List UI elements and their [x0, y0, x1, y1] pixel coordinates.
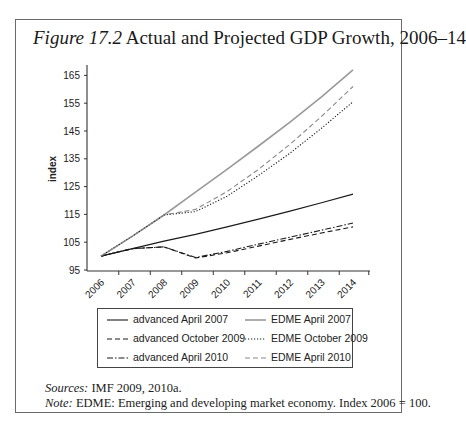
legend: advanced April 2007EDME April 2007advanc… [97, 308, 353, 368]
legend-label: EDME October 2009 [271, 332, 368, 344]
note-text: EDME: Emerging and developing market eco… [76, 396, 431, 410]
legend-item: advanced April 2010 [106, 351, 228, 363]
series-line-edme-october-2009 [101, 102, 353, 256]
y-tick-label: 145 [63, 126, 80, 137]
legend-label: advanced October 2009 [133, 332, 245, 344]
legend-label: EDME April 2010 [271, 351, 351, 363]
x-tick-label: 2009 [177, 276, 201, 300]
series-line-advanced-april-2007 [101, 194, 353, 256]
y-tick-label: 115 [64, 209, 80, 220]
legend-swatch [106, 353, 130, 363]
y-tick-label: 95 [69, 265, 81, 276]
x-tick-label: 2007 [114, 276, 138, 300]
x-tick-label: 2010 [209, 276, 233, 300]
y-tick-label: 165 [63, 70, 80, 81]
y-axis-label: index [47, 156, 58, 183]
legend-swatch [244, 334, 268, 344]
legend-swatch [244, 315, 268, 325]
sources-line: Sources: IMF 2009, 2010a. [45, 381, 182, 396]
legend-swatch [106, 334, 130, 344]
y-tick-label: 155 [63, 98, 80, 109]
x-tick-label: 2013 [303, 276, 327, 300]
y-tick-label: 105 [63, 237, 80, 248]
x-tick-label: 2012 [272, 276, 296, 300]
x-tick-label: 2014 [335, 276, 359, 300]
sources-text: IMF 2009, 2010a. [91, 381, 181, 395]
series-line-edme-april-2007 [101, 70, 353, 256]
legend-item: EDME April 2007 [244, 313, 351, 325]
series-line-edme-april-2010 [101, 87, 353, 257]
legend-label: advanced April 2007 [133, 313, 228, 325]
legend-swatch [244, 353, 268, 363]
legend-item: advanced October 2009 [106, 332, 245, 344]
note-label: Note: [45, 396, 73, 410]
x-tick-label: 2008 [146, 276, 170, 300]
legend-item: EDME April 2010 [244, 351, 351, 363]
note-line: Note: EDME: Emerging and developing mark… [45, 396, 431, 411]
x-tick-label: 2011 [241, 276, 264, 299]
legend-swatch [106, 315, 130, 325]
legend-label: advanced April 2010 [133, 351, 228, 363]
y-tick-label: 125 [63, 181, 80, 192]
x-tick-label: 2006 [83, 276, 107, 300]
legend-item: EDME October 2009 [244, 332, 368, 344]
legend-label: EDME April 2007 [271, 313, 351, 325]
sources-label: Sources: [45, 381, 88, 395]
y-tick-label: 135 [63, 153, 80, 164]
legend-item: advanced April 2007 [106, 313, 228, 325]
